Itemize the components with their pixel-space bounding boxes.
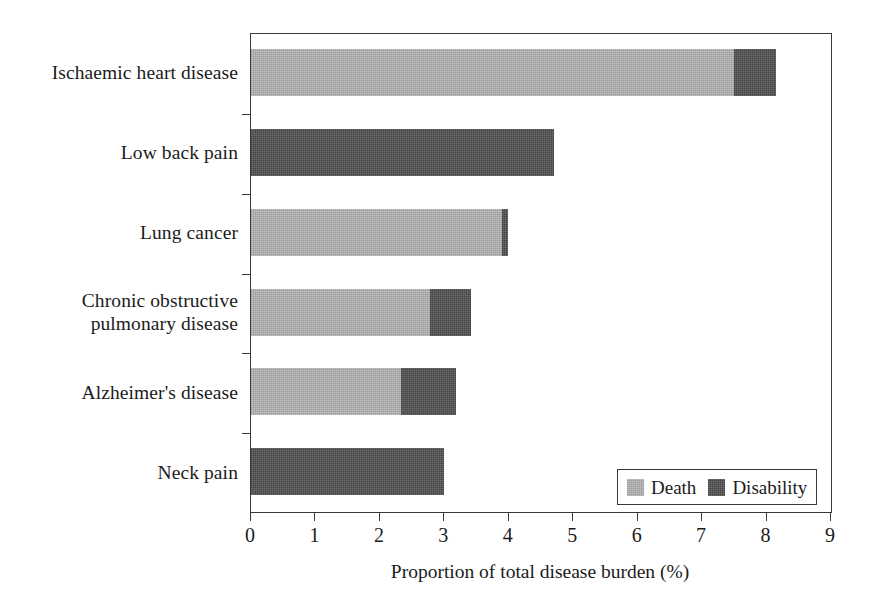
stacked-bar[interactable] [251,448,444,495]
x-axis-tick-label: 4 [488,524,528,547]
stacked-bar[interactable] [251,49,776,96]
y-axis-label-line: Neck pain [10,461,238,484]
bar-segment-death[interactable] [251,49,734,96]
chart-legend: DeathDisability [617,469,817,505]
x-axis-line [250,512,831,513]
stacked-bar[interactable] [251,129,554,176]
bar-segment-death[interactable] [251,209,502,256]
y-axis-label: Low back pain [10,141,238,164]
legend-swatch-death-icon [627,479,644,496]
y-axis-label-line: Ischaemic heart disease [10,61,238,84]
bar-segment-disability[interactable] [251,448,444,495]
x-axis-tick-label: 5 [552,524,592,547]
y-axis-label: Lung cancer [10,221,238,244]
x-axis-tick [572,512,573,521]
y-axis-tick [242,433,251,434]
legend-label: Disability [732,478,807,497]
bar-group [251,114,831,194]
x-axis-tick-label: 1 [294,524,334,547]
x-axis-tick-label: 3 [423,524,463,547]
x-axis-tick [830,512,831,521]
bar-segment-disability[interactable] [734,49,776,96]
x-axis-tick [443,512,444,521]
y-axis-label: Ischaemic heart disease [10,61,238,84]
x-axis-title: Proportion of total disease burden (%) [250,561,830,583]
y-axis-label: Alzheimer's disease [10,381,238,404]
x-axis-tick-label: 0 [230,524,270,547]
bar-segment-disability[interactable] [401,368,456,415]
y-axis-tick [242,194,251,195]
y-axis-label-line: pulmonary disease [10,312,238,335]
y-axis-tick [242,274,251,275]
bar-segment-disability[interactable] [502,209,508,256]
y-axis-label-line: Alzheimer's disease [10,381,238,404]
x-axis-tick-label: 6 [617,524,657,547]
x-axis-tick-label: 7 [681,524,721,547]
stacked-bar[interactable] [251,209,508,256]
bar-group [251,34,831,114]
x-axis-tick [637,512,638,521]
bar-segment-death[interactable] [251,368,401,415]
bar-group [251,353,831,433]
legend-entry[interactable]: Death [627,478,696,497]
bar-group [251,274,831,354]
x-axis-tick [766,512,767,521]
x-axis-tick-label: 8 [746,524,786,547]
bar-group [251,194,831,274]
bar-segment-disability[interactable] [430,289,472,336]
x-axis-tick-label: 9 [810,524,850,547]
x-axis-tick [250,512,251,521]
y-axis-label: Neck pain [10,461,238,484]
y-axis-tick [242,114,251,115]
bar-segment-disability[interactable] [251,129,554,176]
x-axis-tick [701,512,702,521]
y-axis-tick [242,353,251,354]
stacked-bar[interactable] [251,368,456,415]
y-axis-label-line: Low back pain [10,141,238,164]
stacked-bar[interactable] [251,289,471,336]
legend-swatch-disability-icon [708,479,725,496]
y-axis-label-line: Chronic obstructive [10,289,238,312]
plot-area [250,33,832,513]
x-axis-tick [379,512,380,521]
stacked-bar-chart-figure: Ischaemic heart diseaseLow back painLung… [0,0,880,614]
y-axis-label: Chronic obstructivepulmonary disease [10,289,238,335]
legend-entry[interactable]: Disability [708,478,807,497]
x-axis-tick [314,512,315,521]
legend-label: Death [651,478,696,497]
bar-segment-death[interactable] [251,289,430,336]
x-axis-tick-label: 2 [359,524,399,547]
y-axis-label-line: Lung cancer [10,221,238,244]
x-axis-tick [508,512,509,521]
